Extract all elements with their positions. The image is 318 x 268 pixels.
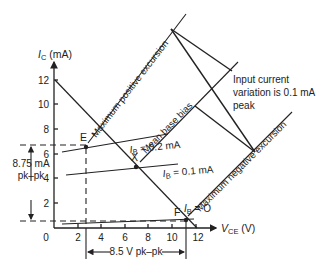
input-note-line2: variation is 0.1 mA	[233, 87, 316, 98]
x-tick-10: 10	[166, 232, 178, 243]
x-tick-12: 12	[192, 232, 204, 243]
point-x	[134, 165, 138, 169]
x-tick-0: 0	[43, 232, 49, 243]
input-note-line1: Input current	[233, 74, 289, 85]
label-e: E	[80, 131, 87, 143]
y-tick-2: 2	[43, 198, 49, 209]
point-f	[184, 218, 188, 222]
vce-swing-label: 8.5 V pk–pk	[110, 246, 164, 257]
ib-0.1-label: IB = 0.1 mA	[162, 164, 214, 181]
ic-swing-label-1: 8.75 mA	[12, 158, 50, 169]
label-f: F	[174, 206, 180, 218]
x-tick-8: 8	[145, 232, 151, 243]
ib-0.1-curve	[66, 164, 178, 175]
point-e	[84, 145, 88, 149]
diagram-svg: 0 2 4 6 8 10 12 2 4 6 8 10 12 IC (mA) VC…	[0, 0, 318, 268]
max-positive-label: Maximum positive excursion	[89, 38, 170, 139]
ic-swing-label-2: pk–pk	[18, 170, 46, 181]
y-tick-10: 10	[38, 99, 50, 110]
x-axis-title: VCE (V)	[221, 222, 255, 236]
x-tick-6: 6	[122, 232, 128, 243]
y-tick-12: 12	[38, 75, 50, 86]
x-tick-4: 4	[98, 232, 104, 243]
y-tick-8: 8	[43, 124, 49, 135]
input-note-line3: peak	[233, 100, 256, 111]
x-tick-2: 2	[75, 232, 81, 243]
load-line-diagram: 0 2 4 6 8 10 12 2 4 6 8 10 12 IC (mA) VC…	[0, 0, 318, 268]
y-axis-title: IC (mA)	[38, 48, 72, 62]
